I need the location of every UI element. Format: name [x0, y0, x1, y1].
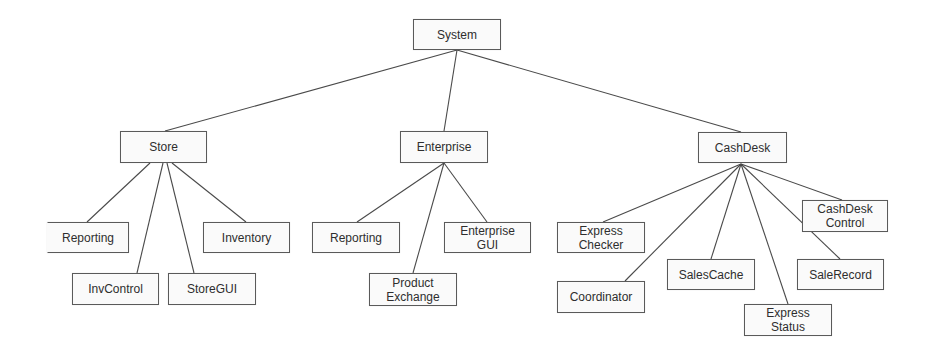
node-label: Enterprise: [417, 140, 472, 154]
edge-system-to-cashdesk: [457, 50, 741, 132]
node-label: Express Status: [766, 306, 809, 334]
node-label: Enterprise GUI: [460, 224, 515, 252]
edge-enterprise-to-product-exchange: [413, 163, 444, 273]
node-invcontrol: InvControl: [72, 273, 159, 305]
node-label: SalesCache: [679, 268, 744, 282]
edge-enterprise-to-enterprise-gui: [444, 163, 487, 222]
node-store-reporting: Reporting: [47, 222, 129, 253]
component-tree-diagram: SystemStoreEnterpriseCashDeskReportingIn…: [0, 0, 939, 355]
node-storegui: StoreGUI: [168, 273, 256, 305]
node-label: Coordinator: [570, 290, 633, 304]
edge-cashdesk-to-express-checker: [603, 164, 741, 222]
edge-enterprise-to-ent-reporting: [357, 163, 444, 222]
edge-store-to-storegui: [167, 163, 194, 273]
node-label: Product Exchange: [386, 276, 439, 304]
node-label: Express Checker: [579, 224, 624, 252]
node-inventory: Inventory: [203, 222, 290, 253]
node-label: Store: [149, 140, 178, 154]
node-express-status: Express Status: [744, 304, 832, 336]
edge-system-to-store: [165, 50, 457, 131]
node-enterprise: Enterprise: [400, 131, 488, 163]
node-express-checker: Express Checker: [557, 222, 645, 253]
node-label: CashDesk Control: [817, 202, 872, 230]
edge-cashdesk-to-cashdesk-control: [741, 164, 842, 200]
edge-store-to-inventory: [172, 163, 246, 222]
node-label: CashDesk: [715, 141, 770, 155]
node-salescache: SalesCache: [667, 259, 755, 290]
node-label: StoreGUI: [187, 282, 237, 296]
edge-store-to-invcontrol: [137, 163, 163, 273]
node-cashdesk: CashDesk: [698, 132, 787, 163]
node-salerecord: SaleRecord: [797, 259, 884, 290]
node-cashdesk-control: CashDesk Control: [802, 200, 888, 232]
node-label: SaleRecord: [809, 268, 872, 282]
node-label: Reporting: [330, 231, 382, 245]
node-label: System: [437, 28, 477, 42]
node-store: Store: [120, 131, 207, 163]
edge-store-to-store-reporting: [87, 163, 150, 222]
node-system: System: [413, 19, 501, 50]
node-label: InvControl: [88, 282, 143, 296]
node-coordinator: Coordinator: [557, 281, 645, 313]
node-label: Reporting: [62, 231, 114, 245]
node-enterprise-gui: Enterprise GUI: [444, 222, 531, 253]
node-product-exchange: Product Exchange: [369, 273, 457, 306]
edge-cashdesk-to-salescache: [711, 164, 741, 259]
node-label: Inventory: [222, 231, 271, 245]
node-ent-reporting: Reporting: [312, 222, 400, 253]
edge-system-to-enterprise: [444, 50, 457, 131]
